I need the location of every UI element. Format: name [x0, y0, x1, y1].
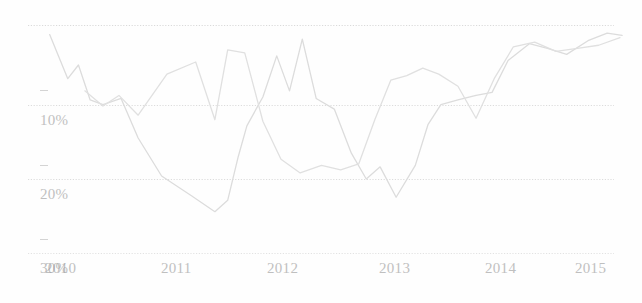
y-tick-dash-20 [40, 165, 48, 166]
x-axis-tick-label-2012: 2012 [267, 260, 298, 277]
line-chart: 10% 20% 30% 2010 2011 2012 2013 2014 201… [0, 0, 642, 303]
x-axis-tick-label-2011: 2011 [161, 260, 192, 277]
x-axis-tick-label-2013: 2013 [379, 260, 410, 277]
y-tick-dash-30 [40, 239, 48, 240]
data-line-1 [50, 33, 622, 212]
data-series-group [50, 33, 622, 212]
y-axis-tick-label-10pct: 10% [40, 112, 68, 129]
y-tick-dash-10 [40, 90, 48, 91]
x-axis-tick-label-2010: 2010 [45, 260, 76, 277]
plot-area [0, 0, 642, 303]
x-axis-tick-label-2015: 2015 [575, 260, 606, 277]
gridlines [28, 26, 614, 254]
y-axis-tick-label-20pct: 20% [40, 186, 68, 203]
x-axis-tick-label-2014: 2014 [485, 260, 516, 277]
data-line-2 [85, 38, 620, 173]
